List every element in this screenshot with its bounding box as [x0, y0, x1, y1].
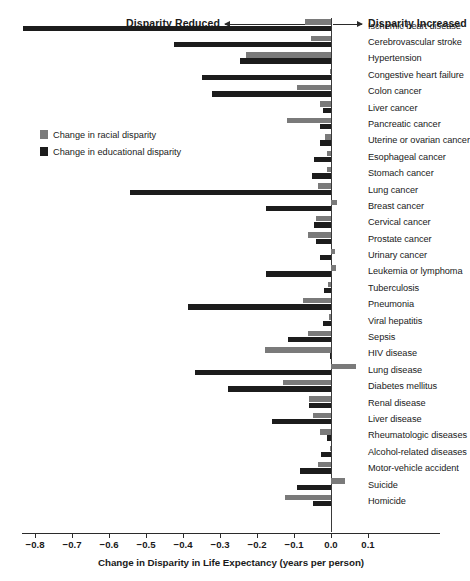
bar-educational — [266, 206, 331, 211]
bar-row: Tuberculosis — [0, 280, 462, 296]
bar-racial — [328, 282, 331, 287]
bar-racial — [331, 200, 337, 205]
axis-tick — [220, 534, 221, 538]
bar-racial — [318, 462, 331, 467]
bar-racial — [325, 134, 331, 139]
axis-tick — [35, 534, 36, 538]
category-label: Ischemic heart disease — [368, 21, 461, 31]
axis-tick-label: 0.0 — [324, 539, 337, 550]
bar-row: Congestive heart failure — [0, 67, 462, 83]
bar-row: Motor-vehicle accident — [0, 461, 462, 477]
bar-educational — [314, 222, 331, 227]
category-label: Pancreatic cancer — [368, 119, 441, 129]
category-label: Hypertension — [368, 53, 422, 63]
category-label: Leukemia or lymphoma — [368, 266, 463, 276]
category-label: Liver disease — [368, 414, 421, 424]
bar-racial — [316, 216, 331, 221]
category-label: Diabetes mellitus — [368, 381, 437, 391]
bar-row: Urinary cancer — [0, 247, 462, 263]
bar-educational — [321, 452, 331, 457]
axis-tick-label: −0.6 — [100, 539, 119, 550]
bar-row: Liver cancer — [0, 100, 462, 116]
x-axis-title: Change in Disparity in Life Expectancy (… — [0, 557, 462, 568]
bar-racial — [329, 314, 331, 319]
bar-row: Lung cancer — [0, 182, 462, 198]
bar-row: Renal disease — [0, 395, 462, 411]
bar-educational — [174, 42, 331, 47]
bar-educational — [320, 255, 331, 260]
bar-racial — [320, 101, 331, 106]
category-label: Tuberculosis — [368, 283, 419, 293]
bar-racial — [309, 396, 331, 401]
category-label: Suicide — [368, 480, 398, 490]
bar-educational — [288, 337, 331, 342]
legend-item: Change in educational disparity — [40, 145, 181, 158]
category-label: Lung disease — [368, 365, 422, 375]
bar-row: Ischemic heart disease — [0, 18, 462, 34]
bar-racial — [313, 413, 331, 418]
bar-row: Leukemia or lymphoma — [0, 264, 462, 280]
category-label: Breast cancer — [368, 201, 424, 211]
legend-label: Change in educational disparity — [53, 147, 181, 157]
bar-racial — [331, 249, 335, 254]
category-label: Viral hepatitis — [368, 316, 422, 326]
bar-educational — [188, 304, 331, 309]
bar-racial — [330, 446, 331, 451]
bar-racial — [287, 118, 331, 123]
bar-racial — [265, 347, 331, 352]
bar-educational — [323, 321, 331, 326]
bar-row: HIV disease — [0, 346, 462, 362]
bar-row: Homicide — [0, 493, 462, 509]
bar-educational — [297, 485, 331, 490]
bar-row: Colon cancer — [0, 84, 462, 100]
category-label: Cerebrovascular stroke — [368, 37, 462, 47]
bar-educational — [320, 124, 331, 129]
category-label: Urinary cancer — [368, 250, 427, 260]
category-label: Stomach cancer — [368, 168, 434, 178]
axis-tick — [257, 534, 258, 538]
bar-row: Suicide — [0, 477, 462, 493]
bar-row: Breast cancer — [0, 198, 462, 214]
category-label: Uterine or ovarian cancer — [368, 135, 470, 145]
bar-row: Rheumatologic diseases — [0, 428, 462, 444]
category-label: Esophageal cancer — [368, 152, 446, 162]
axis-tick-label: 0.1 — [361, 539, 374, 550]
x-axis-line — [22, 533, 440, 534]
axis-tick — [294, 534, 295, 538]
bar-educational — [228, 386, 331, 391]
bar-educational — [313, 501, 331, 506]
bar-educational — [212, 91, 331, 96]
bar-educational — [300, 468, 331, 473]
category-label: Cervical cancer — [368, 217, 431, 227]
legend-label: Change in racial disparity — [53, 130, 156, 140]
category-label: Motor-vehicle accident — [368, 463, 459, 473]
bar-racial — [305, 19, 331, 24]
category-label: Pneumonia — [368, 299, 414, 309]
category-label: Alcohol-related diseases — [368, 447, 467, 457]
bar-row: Alcohol-related diseases — [0, 444, 462, 460]
category-label: Renal disease — [368, 398, 426, 408]
bar-educational — [316, 239, 331, 244]
axis-tick — [368, 534, 369, 538]
x-axis: −0.8−0.7−0.6−0.5−0.4−0.3−0.2−0.10.00.1 C… — [0, 533, 462, 581]
category-label: Homicide — [368, 496, 406, 506]
bar-row: Stomach cancer — [0, 166, 462, 182]
category-label: Lung cancer — [368, 185, 418, 195]
bar-racial — [331, 364, 356, 369]
axis-tick — [331, 534, 332, 538]
bar-row: Cerebrovascular stroke — [0, 34, 462, 50]
bar-row: Hypertension — [0, 51, 462, 67]
bar-educational — [320, 140, 331, 145]
bar-educational — [323, 108, 331, 113]
bar-row: Cervical cancer — [0, 215, 462, 231]
bar-row: Viral hepatitis — [0, 313, 462, 329]
legend-swatch-icon — [40, 147, 48, 156]
bar-racial — [308, 331, 331, 336]
bar-racial — [320, 429, 331, 434]
bar-racial — [285, 495, 331, 500]
bar-racial — [327, 167, 331, 172]
bar-educational — [272, 419, 331, 424]
bar-racial — [283, 380, 331, 385]
category-label: Liver cancer — [368, 103, 417, 113]
